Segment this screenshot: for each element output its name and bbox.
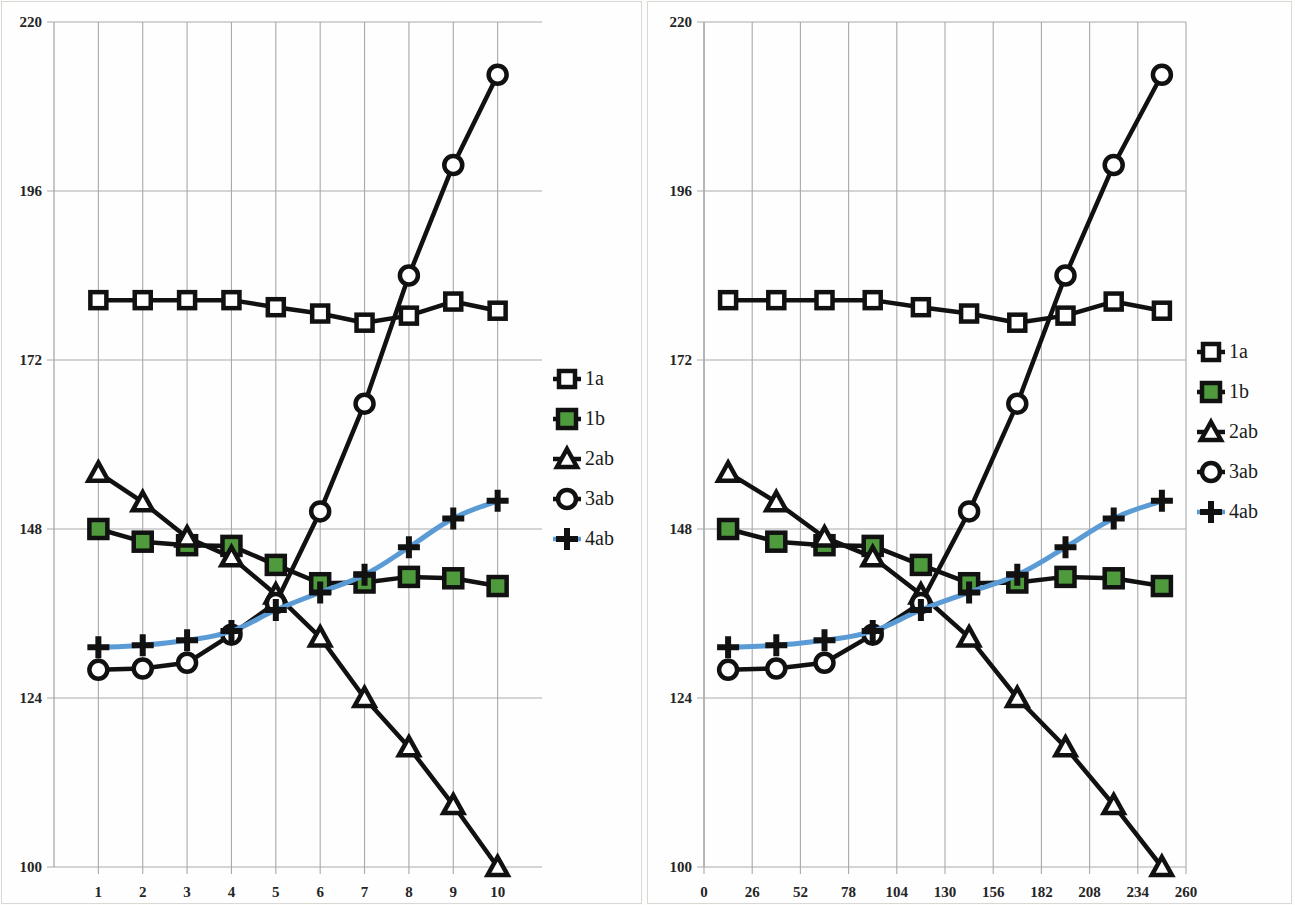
data-point-marker: [356, 395, 374, 413]
data-point-marker: [1009, 315, 1025, 331]
data-point-marker: [490, 303, 506, 319]
data-point-marker: [444, 156, 462, 174]
data-point-marker: [1105, 569, 1123, 587]
legend-marker-plus: [553, 528, 581, 550]
series-1a: [90, 292, 505, 331]
legend-label-4ab: 4ab: [585, 527, 614, 549]
x-tick-label: 78: [841, 884, 856, 900]
y-axis-tick-labels: 100124148172196220: [20, 14, 43, 875]
data-point-marker: [1153, 66, 1171, 84]
x-tick-label: 130: [934, 884, 957, 900]
y-axis-tick-labels: 100124148172196220: [670, 14, 693, 875]
legend-label-1b: 1b: [1229, 380, 1249, 402]
series-line: [98, 473, 497, 867]
data-point-marker: [960, 502, 978, 520]
gridlines: [697, 22, 1186, 874]
data-point-marker: [719, 661, 737, 679]
legend-marker-plus: [1197, 501, 1225, 523]
data-point-marker: [912, 556, 930, 574]
x-tick-label: 156: [982, 884, 1005, 900]
data-point-marker: [814, 629, 836, 651]
data-point-marker: [765, 634, 787, 656]
data-point-marker: [179, 292, 195, 308]
chart-panel-left: 100124148172196220123456789101a1b2ab3ab4…: [1, 1, 642, 904]
data-point-marker: [1154, 303, 1170, 319]
data-point-marker: [1106, 294, 1122, 310]
plot-area-left: 100124148172196220123456789101a1b2ab3ab4…: [2, 2, 643, 905]
x-tick-label: 26: [745, 884, 761, 900]
x-tick-label: 9: [450, 884, 458, 900]
data-point-marker: [719, 520, 737, 538]
data-point-marker: [816, 654, 834, 672]
legend-marker-square-filled: [1197, 383, 1225, 401]
data-point-marker: [766, 492, 786, 510]
data-point-marker: [720, 292, 736, 308]
y-tick-label: 100: [20, 859, 43, 875]
data-point-marker: [87, 636, 109, 658]
data-point-marker: [489, 66, 507, 84]
x-tick-label: 1: [95, 884, 103, 900]
data-point-marker: [1057, 267, 1075, 285]
data-point-marker: [1058, 308, 1074, 324]
x-tick-label: 52: [793, 884, 808, 900]
data-point-marker: [487, 490, 509, 512]
data-point-marker: [90, 292, 106, 308]
legend-marker-triangle-open: [553, 449, 581, 467]
data-point-marker: [1055, 536, 1077, 558]
x-tick-label: 7: [361, 884, 369, 900]
x-tick-label: 208: [1078, 884, 1101, 900]
y-tick-label: 220: [670, 14, 693, 30]
data-point-marker: [865, 292, 881, 308]
data-point-marker: [961, 306, 977, 322]
data-point-marker: [442, 507, 464, 529]
data-point-marker: [817, 292, 833, 308]
data-point-marker: [357, 315, 373, 331]
x-tick-label: 4: [228, 884, 236, 900]
legend-label-2ab: 2ab: [1229, 420, 1258, 442]
data-point-marker: [178, 654, 196, 672]
data-point-marker: [401, 308, 417, 324]
legend-label-3ab: 3ab: [1229, 460, 1258, 482]
x-tick-label: 10: [490, 884, 505, 900]
data-point-marker: [1103, 507, 1125, 529]
data-point-marker: [1057, 568, 1075, 586]
data-point-marker: [1008, 395, 1026, 413]
x-tick-label: 5: [272, 884, 280, 900]
y-tick-label: 196: [20, 183, 43, 199]
data-point-marker: [444, 569, 462, 587]
plot-area-right: 1001241481721962200265278104130156182208…: [648, 2, 1293, 905]
data-point-marker: [312, 306, 328, 322]
x-tick-label: 8: [405, 884, 413, 900]
y-tick-label: 124: [670, 690, 693, 706]
data-point-marker: [311, 502, 329, 520]
series-line: [98, 300, 497, 323]
legend-label-4ab: 4ab: [1229, 500, 1258, 522]
x-tick-label: 2: [139, 884, 147, 900]
data-point-marker: [134, 659, 152, 677]
legend-marker-circle-open: [553, 490, 581, 508]
legend-marker-square-open: [553, 371, 581, 387]
data-point-marker: [132, 634, 154, 656]
legend-label-1a: 1a: [1229, 340, 1248, 362]
legend: 1a1b2ab3ab4ab: [1197, 340, 1258, 523]
y-tick-label: 172: [670, 352, 693, 368]
x-axis-tick-labels: 0265278104130156182208234260: [700, 884, 1197, 900]
series-line: [98, 75, 497, 670]
legend-label-1a: 1a: [585, 367, 604, 389]
x-tick-label: 0: [700, 884, 708, 900]
data-point-marker: [88, 463, 108, 481]
data-point-marker: [768, 292, 784, 308]
x-tick-label: 260: [1175, 884, 1198, 900]
data-point-marker: [89, 661, 107, 679]
x-tick-label: 104: [886, 884, 909, 900]
data-point-marker: [400, 267, 418, 285]
y-tick-label: 100: [670, 859, 693, 875]
data-point-marker: [1151, 490, 1173, 512]
gridlines: [47, 22, 542, 874]
data-point-marker: [268, 299, 284, 315]
data-point-marker: [176, 629, 198, 651]
data-point-marker: [1105, 156, 1123, 174]
y-tick-label: 148: [670, 521, 693, 537]
data-point-marker: [767, 533, 785, 551]
legend-marker-triangle-open: [1197, 422, 1225, 440]
